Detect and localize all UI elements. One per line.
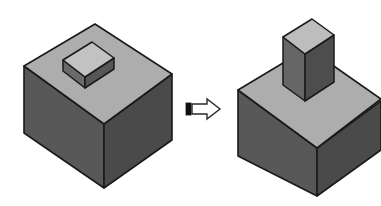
figure-root (0, 0, 381, 206)
isometric-diagram (0, 0, 381, 206)
arrow-tail-block-icon (186, 103, 191, 115)
